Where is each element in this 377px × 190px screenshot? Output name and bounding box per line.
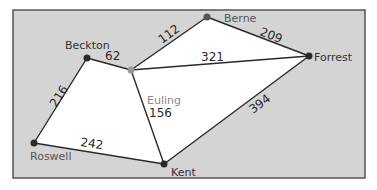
- label-kent: Kent: [171, 166, 196, 179]
- node-forrest: [306, 53, 313, 60]
- weight-euling-forrest: 321: [201, 50, 224, 64]
- node-beckton: [84, 55, 91, 62]
- weight-beckton-euling: 62: [105, 49, 120, 63]
- weight-euling-kent: 156: [149, 106, 172, 120]
- label-berne: Berne: [224, 12, 257, 25]
- node-euling: [128, 67, 135, 74]
- node-berne: [204, 14, 211, 21]
- node-kent: [161, 161, 168, 168]
- label-beckton: Beckton: [65, 39, 110, 52]
- graph-diagram: Beckton Euling Berne Forrest Kent Roswel…: [0, 0, 377, 190]
- node-roswell: [31, 140, 38, 147]
- label-roswell: Roswell: [30, 150, 72, 163]
- label-forrest: Forrest: [314, 51, 353, 64]
